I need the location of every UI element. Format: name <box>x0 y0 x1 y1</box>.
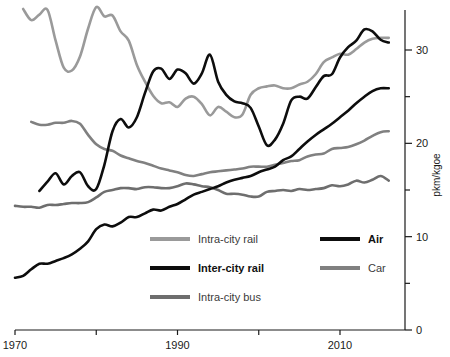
x-tick-label-1990: 1990 <box>165 339 189 351</box>
x-tick-label-1970: 1970 <box>3 339 27 351</box>
x-tick-label-2010: 2010 <box>328 339 352 351</box>
series-line-inter-city-rail <box>15 88 389 278</box>
legend-item-inter-city-rail[interactable]: Inter-city rail <box>150 262 264 274</box>
legend-label: Air <box>368 233 384 245</box>
legend-item-intra-city-rail[interactable]: Intra-city rail <box>150 233 258 245</box>
legend-label: Intra-city bus <box>198 291 261 303</box>
line-chart: 1970199020100102030pkm/kgoe Intra-city r… <box>0 0 450 357</box>
series-line-car <box>31 121 389 176</box>
y-tick-label-20: 20 <box>416 137 428 149</box>
legend-label: Inter-city rail <box>198 262 264 274</box>
y-tick-label-10: 10 <box>416 231 428 243</box>
legend-item-air[interactable]: Air <box>320 233 384 245</box>
legend-label: Intra-city rail <box>198 233 258 245</box>
y-axis-title: pkm/kgoe <box>431 153 442 197</box>
legend-item-car[interactable]: Car <box>320 262 386 274</box>
chart-legend: Intra-city railInter-city railIntra-city… <box>150 233 386 303</box>
y-tick-label-0: 0 <box>416 324 422 336</box>
y-tick-label-30: 30 <box>416 44 428 56</box>
chart-container: 1970199020100102030pkm/kgoe Intra-city r… <box>0 0 450 357</box>
legend-item-intra-city-bus[interactable]: Intra-city bus <box>150 291 261 303</box>
legend-label: Car <box>368 262 386 274</box>
